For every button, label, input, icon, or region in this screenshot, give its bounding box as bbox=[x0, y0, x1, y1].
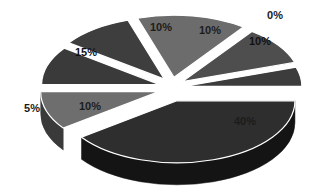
pie-slice-label: 10% bbox=[199, 24, 221, 36]
pie-slice-label: 40% bbox=[234, 115, 256, 127]
pie-slice-label: 10% bbox=[79, 100, 101, 112]
pie-slice-label: 15% bbox=[75, 46, 97, 58]
pie-chart-canvas: 40%10%0%10%10%15%10%5% bbox=[0, 0, 326, 187]
pie-chart-figure: 40%10%0%10%10%15%10%5% bbox=[0, 0, 326, 187]
pie-slice-label: 0% bbox=[267, 9, 283, 21]
pie-slice-label: 10% bbox=[150, 21, 172, 33]
pie-slice-label: 5% bbox=[24, 102, 40, 114]
pie-slice-label: 10% bbox=[249, 35, 271, 47]
